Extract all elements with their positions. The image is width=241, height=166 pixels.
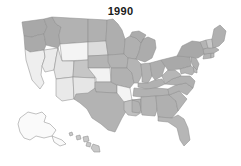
state-FL — [158, 115, 190, 146]
state-MN — [106, 19, 125, 55]
state-NE — [88, 55, 111, 68]
state-HI — [69, 132, 100, 152]
state-CA — [25, 49, 45, 89]
state-SD — [88, 41, 108, 56]
state-ME — [212, 25, 226, 48]
state-OR — [24, 34, 46, 52]
us-map-svg — [0, 0, 241, 166]
us-choropleth-map-figure: 1990 — [0, 0, 241, 166]
state-WY — [60, 42, 88, 61]
state-ND — [88, 19, 107, 42]
state-AZ — [56, 77, 74, 101]
state-RI — [211, 53, 214, 58]
state-MS — [132, 99, 142, 113]
state-AL — [141, 96, 157, 116]
state-IA — [108, 54, 128, 68]
state-AK — [18, 112, 66, 146]
